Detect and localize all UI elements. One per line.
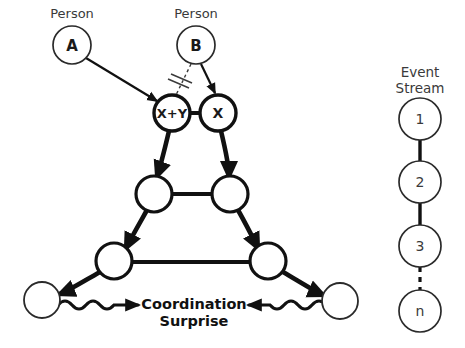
edge-mid-left-to-lower-left xyxy=(126,210,147,248)
event-stream-node-2-label: 2 xyxy=(416,174,425,190)
surprise-wavy-connector-right xyxy=(249,301,326,309)
person-b-caption: Person xyxy=(174,6,218,21)
node-xy-label: X+Y xyxy=(157,106,188,121)
node-person-b-label: B xyxy=(190,37,201,55)
event-stream-caption-line1: Event xyxy=(401,64,440,80)
event-stream-node-3-label: 3 xyxy=(416,238,425,254)
node-person-b[interactable]: B xyxy=(177,26,215,64)
event-stream-node-3[interactable]: 3 xyxy=(399,225,441,267)
event-stream-node-2[interactable]: 2 xyxy=(399,161,441,203)
edge-person-a-to-xy xyxy=(86,58,157,101)
event-stream-caption-line2: Stream xyxy=(396,80,445,96)
node-bottom-right[interactable] xyxy=(322,283,358,319)
edge-person-b-to-x xyxy=(201,64,215,93)
node-bottom-left[interactable] xyxy=(24,282,60,318)
node-x[interactable]: X xyxy=(200,95,236,131)
edge-lower-left-to-bottom-left xyxy=(60,272,100,294)
node-mid-left[interactable] xyxy=(136,176,172,212)
node-x-label: X xyxy=(213,105,224,121)
node-person-a-label: A xyxy=(66,37,78,55)
edge-xy-to-mid-left xyxy=(157,131,169,176)
event-stream-node-1[interactable]: 1 xyxy=(399,98,441,140)
coordination-surprise-label-line1: Coordination xyxy=(141,296,246,312)
node-mid-right[interactable] xyxy=(212,176,248,212)
event-stream-node-1-label: 1 xyxy=(416,111,425,127)
edge-x-to-mid-right xyxy=(221,131,229,176)
coordination-surprise-label-line2: Surprise xyxy=(160,313,229,329)
node-xy[interactable]: X+Y xyxy=(154,95,190,131)
edge-mid-right-to-lower-right xyxy=(238,210,258,248)
person-a-caption: Person xyxy=(50,6,94,21)
surprise-wavy-connector-left xyxy=(58,301,138,309)
edge-lower-right-to-bottom-right xyxy=(283,272,323,295)
event-stream-node-n[interactable]: n xyxy=(399,290,441,332)
node-lower-left[interactable] xyxy=(96,243,132,279)
diagram-canvas: A Person B Person X+Y X xyxy=(0,0,465,348)
coordination-surprise-diagram: A Person B Person X+Y X xyxy=(0,0,465,348)
node-lower-right[interactable] xyxy=(250,243,286,279)
event-stream-node-n-label: n xyxy=(416,303,425,319)
node-person-a[interactable]: A xyxy=(53,26,91,64)
